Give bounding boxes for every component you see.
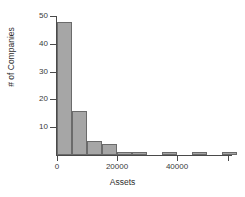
histogram-bar xyxy=(87,141,102,155)
y-tick-label: 30 xyxy=(22,68,48,76)
x-tick-label: 20000 xyxy=(106,163,128,171)
histogram-bar xyxy=(192,152,207,155)
y-tick-mark xyxy=(50,99,56,100)
y-axis-title: # of Companies xyxy=(6,5,16,109)
x-tick-mark xyxy=(57,156,58,161)
x-tick-mark xyxy=(117,156,118,161)
histogram-bar xyxy=(117,152,132,155)
histogram-figure: 1020304050 02000040000 Assets # of Compa… xyxy=(0,0,245,197)
y-tick-mark xyxy=(50,16,56,17)
x-axis-title: Assets xyxy=(0,177,245,187)
histogram-bar xyxy=(57,22,72,155)
y-tick-mark xyxy=(50,72,56,73)
x-tick-label: 40000 xyxy=(166,163,188,171)
y-tick-mark xyxy=(50,44,56,45)
x-tick-label: 0 xyxy=(55,163,59,171)
histogram-bar xyxy=(132,152,147,155)
histogram-bar xyxy=(222,152,237,155)
plot-area xyxy=(57,16,228,155)
x-tick-mark xyxy=(177,156,178,161)
y-tick-label: 40 xyxy=(22,40,48,48)
histogram-bar xyxy=(72,111,87,155)
y-tick-label: 20 xyxy=(22,95,48,103)
histogram-bar xyxy=(102,144,117,155)
x-axis-line xyxy=(56,155,232,156)
y-tick-label: 10 xyxy=(22,123,48,131)
y-tick-mark xyxy=(50,127,56,128)
y-tick-label: 50 xyxy=(22,12,48,20)
histogram-bar xyxy=(162,152,177,155)
x-tick-mark xyxy=(228,156,229,161)
